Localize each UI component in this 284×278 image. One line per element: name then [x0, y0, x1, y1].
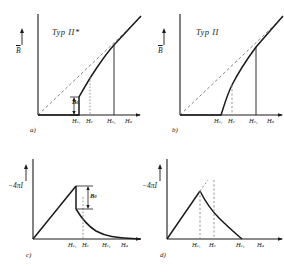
panel-c: −4πI B0 Hc₁ Hc Hc₂ Ha c)	[0, 139, 142, 278]
decay-curve	[76, 209, 141, 239]
panel-b: Typ II B Hc₁ Hc Hc₂ Ha b)	[142, 0, 284, 139]
panel-a-ylabel: B	[16, 46, 21, 55]
panel-d-letter: d)	[160, 251, 166, 259]
panel-b-tick-hc2: Hc₂	[249, 117, 257, 124]
panel-b-title: Typ II	[196, 27, 219, 37]
panel-a: Typ II* B B0 Hc₁ Hc Hc₂ Ha a)	[0, 0, 142, 139]
apex-extension-dashed	[200, 180, 208, 191]
panel-b-xlabel: Ha	[267, 117, 274, 124]
panel-d-xlabel: Ha	[257, 241, 264, 248]
rise-segment	[167, 191, 200, 239]
panel-c-tick-hc: Hc	[82, 241, 89, 248]
panel-d-tick-hc2: Hc₂	[236, 241, 244, 248]
panel-a-b0-label: B0	[72, 98, 79, 105]
panel-a-xlabel: Ha	[125, 117, 132, 124]
panel-d-ylabel: −4πI	[142, 181, 157, 190]
panel-a-letter: a)	[30, 126, 36, 134]
panel-a-tick-hc1: Hc₁	[72, 117, 80, 124]
x-axis-arrowhead	[136, 113, 141, 116]
x-axis-arrowhead	[136, 237, 141, 240]
panel-c-xlabel: Ha	[121, 241, 128, 248]
panel-b-ylabel: B	[158, 46, 163, 55]
panel-a-title: Typ II*	[52, 27, 80, 37]
y-axis-arrowhead	[20, 28, 24, 33]
panel-d-tick-hc1: Hc₁	[192, 241, 200, 248]
panel-c-tick-hc2: Hc₂	[102, 241, 110, 248]
panel-a-plot	[0, 0, 142, 139]
y-axis-arrowhead	[162, 28, 166, 33]
y-axis-arrowhead	[158, 164, 162, 169]
panel-a-tick-hc: Hc	[86, 117, 93, 124]
x-axis-arrowhead	[278, 237, 283, 240]
b0-arrow-up	[86, 186, 89, 190]
panel-c-ylabel: −4πI	[8, 181, 23, 190]
y-axis-arrowhead	[24, 164, 28, 169]
panel-b-tick-hc1: Hc₁	[214, 117, 222, 124]
panel-c-letter: c)	[26, 251, 31, 259]
panel-a-tick-hc2: Hc₂	[107, 117, 115, 124]
panel-b-plot	[142, 0, 284, 139]
panel-d-tick-hc: Hc	[209, 241, 216, 248]
panel-d: −4πI Hc₁ Hc Hc₂ Ha d)	[142, 139, 284, 278]
rise-segment	[33, 186, 76, 239]
panel-c-b0-label: B0	[90, 192, 97, 199]
decay-curve	[200, 191, 242, 239]
x-axis-arrowhead	[278, 113, 283, 116]
panel-b-tick-hc: Hc	[228, 117, 235, 124]
panel-c-tick-hc1: Hc₁	[68, 241, 76, 248]
b0-arrow-down	[86, 205, 89, 209]
panel-b-letter: b)	[172, 126, 178, 134]
panel-c-plot	[0, 139, 142, 278]
